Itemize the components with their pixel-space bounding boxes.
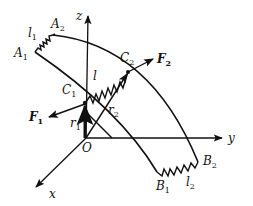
a2-stub bbox=[53, 34, 55, 35]
c2-node bbox=[126, 70, 130, 74]
label-f2: F2 bbox=[157, 53, 171, 67]
r2-vector bbox=[86, 74, 127, 138]
position-vectors bbox=[85, 74, 127, 138]
label-origin: O bbox=[82, 142, 92, 154]
rods bbox=[35, 34, 198, 172]
f1-arrow bbox=[49, 104, 85, 117]
c1-node bbox=[83, 101, 87, 105]
label-b1: B1 bbox=[156, 180, 170, 195]
label-f1: F1 bbox=[29, 111, 43, 125]
label-z-axis: z bbox=[76, 10, 82, 22]
label-a1: A1 bbox=[14, 47, 28, 62]
label-y-axis: y bbox=[228, 132, 235, 144]
x-axis bbox=[36, 138, 86, 187]
diagram-svg bbox=[0, 0, 253, 206]
label-l: l bbox=[93, 70, 97, 82]
label-r2: r2 bbox=[108, 104, 119, 119]
label-c1: C1 bbox=[62, 84, 76, 99]
label-r1: r1 bbox=[70, 117, 81, 132]
label-x-axis: x bbox=[49, 188, 56, 200]
diagram-canvas: z y x O A1 A2 l1 C1 C2 l F2 F1 r1 r2 B1 … bbox=[0, 0, 253, 206]
spring-l2 bbox=[157, 162, 198, 176]
spring-l1 bbox=[35, 35, 53, 52]
label-a2: A2 bbox=[51, 18, 65, 33]
label-l1: l1 bbox=[28, 27, 37, 42]
label-b2: B2 bbox=[203, 155, 217, 170]
label-l2: l2 bbox=[186, 176, 195, 191]
label-c2: C2 bbox=[120, 52, 134, 67]
axes bbox=[36, 16, 222, 187]
